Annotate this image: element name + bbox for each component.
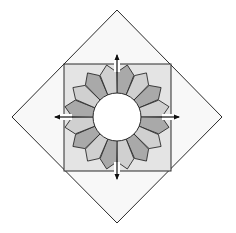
- arrow-left-icon: [54, 114, 72, 120]
- arrow-up-icon: [114, 54, 120, 72]
- diagram-svg: [0, 0, 236, 233]
- quilt-block-diagram: [0, 0, 236, 233]
- arrow-right-icon: [162, 114, 180, 120]
- arrow-down-icon: [114, 162, 120, 180]
- center-circle: [93, 93, 141, 141]
